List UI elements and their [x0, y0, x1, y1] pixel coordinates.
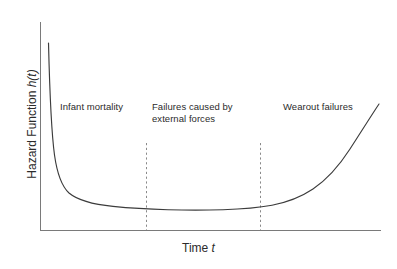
- bathtub-curve-figure: Infant mortality Failures caused by exte…: [0, 0, 397, 269]
- y-axis-label: Hazard Function h(t): [25, 14, 39, 234]
- y-axis-label-spacer: [25, 87, 39, 90]
- hazard-curve-path: [49, 43, 380, 210]
- x-axis-label: Time t: [0, 241, 397, 255]
- hazard-function-plot: [0, 0, 397, 269]
- region-label-infant-mortality: Infant mortality: [60, 101, 123, 113]
- y-axis-label-symbol: h(t): [25, 69, 39, 87]
- region-label-external-forces: Failures caused by external forces: [152, 101, 233, 124]
- x-axis-label-symbol: t: [212, 241, 215, 255]
- y-axis-label-text: Hazard Function: [25, 91, 39, 179]
- x-axis-label-text: Time: [182, 241, 208, 255]
- region-label-wearout-failures: Wearout failures: [283, 101, 353, 113]
